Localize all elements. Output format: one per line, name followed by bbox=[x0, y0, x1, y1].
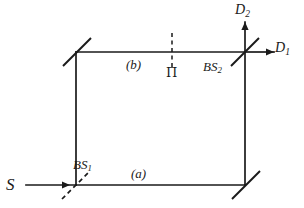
detector-1-label-base: D bbox=[275, 40, 285, 55]
phase-element-label: Π bbox=[166, 66, 177, 79]
beam-splitter-2-label: BS2 bbox=[203, 60, 222, 75]
beam-splitter-2-label-subscript: 2 bbox=[217, 65, 221, 75]
path-lower-label: (a) bbox=[131, 167, 146, 180]
detector-2-label: D2 bbox=[235, 3, 250, 19]
source-label: S bbox=[6, 176, 15, 193]
beam-splitter-1-label-subscript: 1 bbox=[87, 163, 91, 173]
arrowhead-output-d1 bbox=[266, 48, 274, 55]
detector-2-label-subscript: 2 bbox=[245, 9, 250, 19]
detector-2-label-base: D bbox=[235, 2, 245, 17]
detector-1-label-subscript: 1 bbox=[285, 47, 290, 57]
beam-splitter-1-label-base: BS bbox=[73, 157, 87, 172]
arrowhead-input-beam bbox=[62, 181, 70, 188]
figure-root: S BS1 BS2 D1 D2 (a) (b) Π bbox=[0, 0, 304, 208]
path-upper-label: (b) bbox=[126, 58, 141, 71]
beam-splitter-2-label-base: BS bbox=[203, 59, 217, 74]
beam-splitter-1-label: BS1 bbox=[73, 158, 92, 173]
detector-1-label: D1 bbox=[275, 41, 290, 57]
interferometer-schematic bbox=[0, 0, 304, 208]
arrowhead-output-d2 bbox=[241, 22, 248, 30]
